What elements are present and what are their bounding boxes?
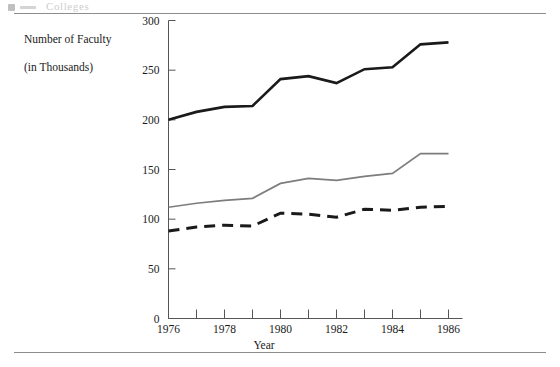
x-axis-title-text: Year [253, 339, 274, 351]
y-axis-title-line1: Number of Faculty [24, 32, 150, 46]
series-line-part-time [169, 154, 449, 208]
y-axis-tick-label: 150 [142, 164, 160, 176]
y-axis-tick-label: 200 [142, 114, 160, 126]
y-axis-tick-label: 50 [148, 263, 160, 275]
series-line-full-time [169, 206, 449, 231]
x-axis-tick-label: 1986 [437, 323, 460, 335]
x-axis-tick-label: 1982 [325, 323, 348, 335]
header-text: Colleges [46, 0, 89, 12]
y-axis-title-line2: (in Thousands) [24, 60, 150, 74]
figure-container: Colleges Number of Faculty (in Thousands… [0, 0, 560, 367]
x-axis-tick-label: 1984 [381, 323, 404, 335]
x-axis-tick-label: 1980 [269, 323, 292, 335]
y-axis-title: Number of Faculty (in Thousands) [24, 18, 150, 88]
y-axis-tick-label: 100 [142, 213, 160, 225]
divider-top [14, 13, 546, 14]
x-axis-title: Year [0, 339, 560, 351]
x-axis-tick-label: 1978 [213, 323, 236, 335]
divider-bottom [14, 352, 546, 353]
page-header-fragment: Colleges [8, 0, 208, 12]
series-line-total [169, 42, 449, 119]
square-bullet-icon [8, 4, 15, 11]
rule-dash-icon [20, 6, 36, 9]
x-axis-tick-label: 1976 [157, 323, 180, 335]
